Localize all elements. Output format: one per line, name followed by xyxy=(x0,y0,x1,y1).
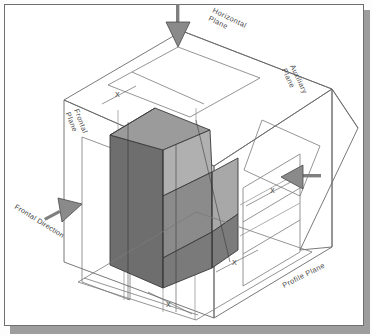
dim-mark-a: X xyxy=(115,91,120,99)
horizontal-plane-label: Horizontal Plane xyxy=(207,6,248,38)
frontal-view-arrow-head xyxy=(58,198,82,222)
top-view-outline xyxy=(108,47,260,117)
auxiliary-plane-label: Auxiliary Plane xyxy=(280,63,309,99)
profile-plane-label-text: Profile Plane xyxy=(281,261,327,290)
side-view-edge-2 xyxy=(243,220,300,254)
diagram-canvas: X X X X Frontal Plane Horizontal xyxy=(0,0,372,336)
frontal-direction-label: Frontal Direction xyxy=(13,203,66,240)
frontal-direction-label-text: Frontal Direction xyxy=(13,203,66,240)
frontal-view-arrow-shaft xyxy=(44,210,61,221)
top-view-edge xyxy=(132,72,204,104)
dim-mark-b: X xyxy=(166,301,171,309)
profile-view-arrow-shaft xyxy=(302,174,321,177)
projector-line-7 xyxy=(240,203,300,236)
dim-mark-d: X xyxy=(270,187,275,195)
frontal-view-arrow xyxy=(44,198,82,222)
frontal-plane-label: Frontal Plane xyxy=(64,107,90,137)
horizontal-view-arrow-head xyxy=(166,22,190,47)
base-inner-edge xyxy=(84,278,198,315)
profile-plane-label: Profile Plane xyxy=(281,261,327,290)
glass-box-projection-drawing: X X X X Frontal Plane Horizontal xyxy=(0,0,372,336)
horizontal-view-arrow xyxy=(166,4,190,47)
dim-mark-c: X xyxy=(232,259,237,267)
horizontal-view-arrow-shaft xyxy=(176,4,179,23)
solid-object xyxy=(110,108,238,312)
object-front-left-face xyxy=(110,135,163,288)
profile-view-arrow xyxy=(281,165,321,189)
auxiliary-view-outline xyxy=(244,120,320,196)
